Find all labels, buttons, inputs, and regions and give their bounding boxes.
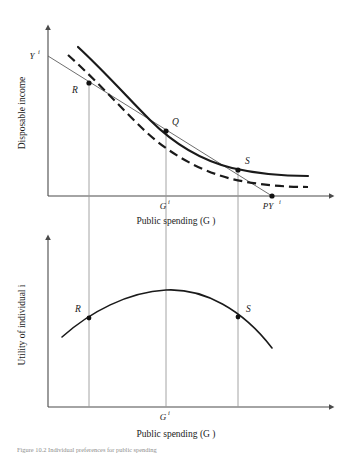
label-y-intercept: Y i [29,48,40,61]
point-s-bottom [236,315,241,320]
label-point-s-top: S [245,156,250,166]
point-q-top [163,128,168,133]
label-tick-pyi-base: PY [262,201,274,211]
label-tick-gi-bottom-base: G [160,412,167,422]
top-x-axis-title: Public spending (G ) [137,216,216,227]
utility-curve [62,290,272,348]
label-point-r-bottom: R [74,304,81,314]
point-s-top [235,167,240,172]
figure-svg: R Q S Y i G i PY i Disposable income Pub… [0,0,346,455]
indifference-curve-solid [78,47,308,176]
top-y-axis-title: Disposable income [17,77,27,150]
figure-caption: Figure 10.2 Individual preferences for p… [17,446,337,454]
bottom-y-axis-title: Utility of individual i [17,284,27,365]
label-tick-pyi-sup: i [279,198,281,205]
label-tick-pyi: PY i [262,198,281,211]
point-r-top [86,80,91,85]
label-point-r-top: R [71,85,78,95]
bottom-panel: R S G i Utility of individual i Public s… [17,239,330,440]
label-tick-gi-bottom-sup: i [168,409,170,416]
bottom-x-axis-title: Public spending (G ) [137,429,216,440]
figure-container: R Q S Y i G i PY i Disposable income Pub… [0,0,346,455]
label-tick-gi-top: G i [160,198,170,211]
point-py-intercept [269,193,274,198]
top-panel: R Q S Y i G i PY i Disposable income Pub… [17,29,330,255]
label-point-q-top: Q [172,117,179,127]
label-point-s-bottom: S [246,304,251,314]
point-r-bottom [87,316,92,321]
label-y-intercept-base: Y [29,51,35,61]
indifference-curve-dashed [68,55,308,187]
label-tick-gi-bottom: G i [160,409,170,422]
budget-line [48,56,272,196]
label-tick-gi-top-sup: i [168,198,170,205]
label-y-intercept-sup: i [38,48,40,55]
label-tick-gi-top-base: G [160,201,167,211]
